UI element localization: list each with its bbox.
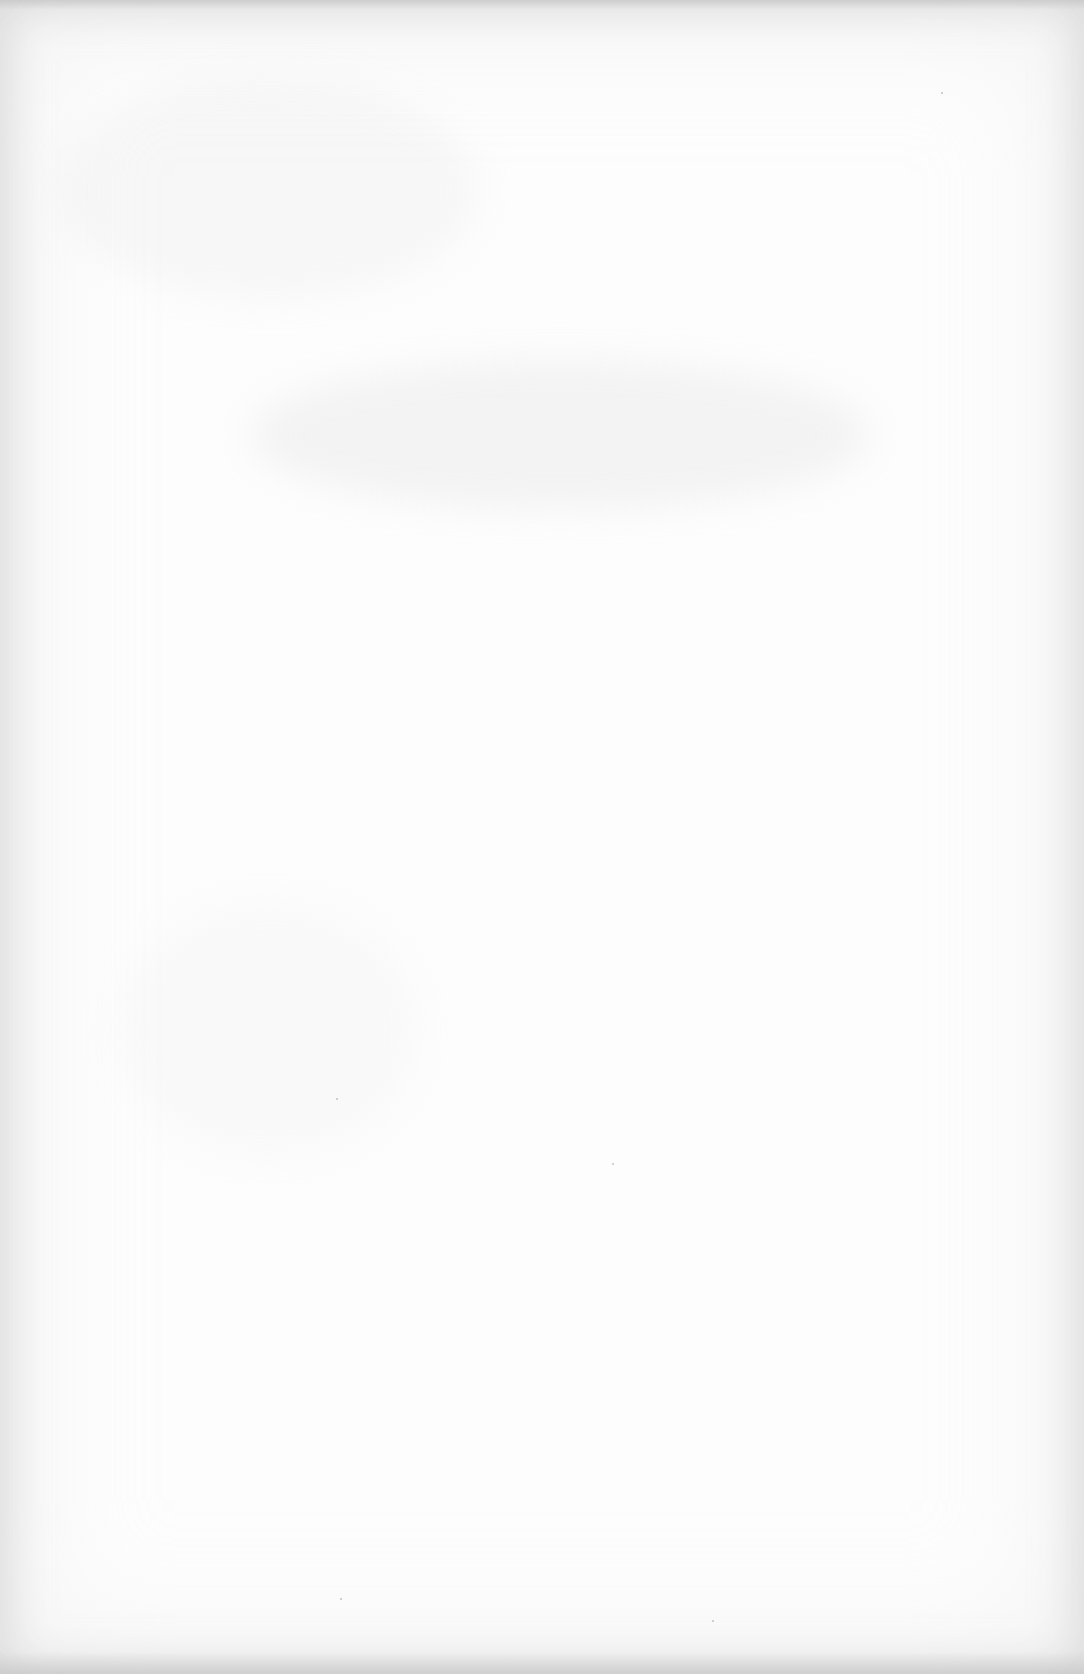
blank-paper-page: [0, 0, 1084, 1674]
scan-top-edge-shadow: [0, 0, 1084, 10]
scan-bottom-edge-shadow: [0, 1652, 1084, 1674]
dust-speck: [712, 1620, 714, 1622]
page-content-area: [90, 90, 994, 1584]
dust-speck: [340, 1598, 342, 1600]
